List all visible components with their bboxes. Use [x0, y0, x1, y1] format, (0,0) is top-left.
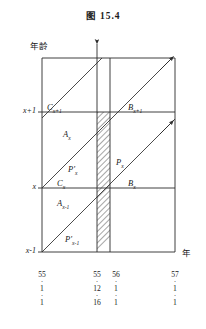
- region-sub: x+1: [133, 108, 142, 114]
- region-label-B-x-plus-1: Bx+1: [128, 102, 142, 114]
- tick-day: 1: [162, 299, 188, 307]
- region-label-P-x: Px: [116, 157, 124, 169]
- axis-tick-marks: [38, 112, 42, 252]
- region-sub: x-1: [62, 204, 69, 210]
- hatched-parallelogram-px: [42, 48, 182, 252]
- diagonal-arrowheads: [160, 57, 174, 135]
- region-label-B-x: Bx: [128, 178, 136, 190]
- x-tick-label-1955-01-01: 55 · 1 · 1: [29, 271, 55, 307]
- y-tick-label-x: x: [6, 182, 36, 191]
- y-tick-label-x-plus-1: x+1: [6, 106, 36, 115]
- region-sub: x: [63, 184, 65, 190]
- arrow-diagonal-middle: [160, 57, 174, 71]
- hatch-fill-upper: [97, 99, 110, 188]
- tick-day: 1: [103, 299, 129, 307]
- region-sub: x: [68, 135, 70, 141]
- hatch-fill-lower: [97, 175, 110, 252]
- y-axis-title: 年龄: [30, 39, 48, 51]
- arrow-diagonal-lower: [160, 121, 174, 135]
- x-tick-label-1956-01-01: 56 · 1 · 1: [103, 271, 129, 307]
- region-sub: x: [75, 170, 77, 176]
- diagonal-upper: [42, 0, 176, 118]
- region-sub: x-1: [72, 240, 79, 246]
- y-tick-label-x-minus-1: x-1: [6, 246, 36, 255]
- region-label-P-prime-x: P′x: [68, 164, 78, 176]
- region-label-A-x: Ax: [63, 129, 71, 141]
- x-axis-title: 年: [182, 246, 191, 258]
- cohort-diagonals: [42, 0, 182, 252]
- region-label-C-x-plus-1: Cx+1: [47, 102, 62, 114]
- region-label-P-prime-x-minus-1: P′x-1: [65, 234, 79, 246]
- tick-day: 1: [29, 299, 55, 307]
- region-sub: x: [121, 163, 123, 169]
- region-label-C-x: Cx: [57, 178, 65, 190]
- region-label-A-x-minus-1: Ax-1: [57, 198, 69, 210]
- x-tick-label-1957-01-01: 57 · 1 · 1: [162, 271, 188, 307]
- region-sub: x+1: [53, 108, 62, 114]
- region-sub: x: [133, 184, 135, 190]
